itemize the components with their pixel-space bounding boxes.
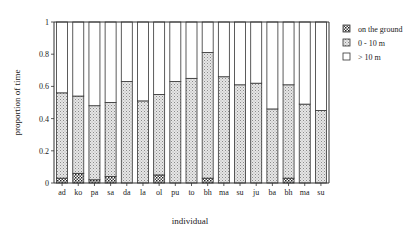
bar-segment	[73, 173, 84, 183]
x-tick-label: ma	[219, 188, 229, 197]
legend-label: on the ground	[358, 25, 402, 34]
bar-segment	[315, 22, 326, 111]
x-tick-label: bh	[204, 188, 212, 197]
bar-segment	[202, 22, 213, 53]
x-tick-label: bh	[285, 188, 293, 197]
x-tick-label: su	[236, 188, 243, 197]
plot-area: adkopasadalaolputobhmasujubabhmasu00.20.…	[12, 18, 329, 226]
bar-segment	[202, 53, 213, 179]
bar-segment	[218, 22, 229, 77]
bar-segment	[283, 85, 294, 178]
x-tick-label: ju	[252, 188, 259, 197]
bar-ba	[267, 22, 278, 183]
bar-ma	[299, 22, 310, 183]
y-tick-label: 0.4	[39, 115, 49, 124]
x-axis-title: individual	[172, 216, 209, 226]
bar-segment	[154, 175, 165, 183]
bar-segment	[235, 22, 246, 85]
bar-segment	[170, 22, 181, 82]
bar-pa	[89, 22, 100, 183]
legend-swatch	[343, 25, 350, 32]
bar-segment	[57, 93, 68, 178]
bar-segment	[121, 82, 132, 183]
bar-segment	[154, 22, 165, 94]
x-tick-label: pu	[171, 188, 179, 197]
bar-su	[315, 22, 326, 183]
legend-label: > 10 m	[358, 53, 382, 62]
legend-label: 0 - 10 m	[358, 39, 386, 48]
y-tick-label: 0.6	[39, 82, 49, 91]
x-tick-label: ma	[300, 188, 310, 197]
stacked-bar-chart: adkopasadalaolputobhmasujubabhmasu00.20.…	[0, 0, 420, 234]
x-tick-label: su	[317, 188, 324, 197]
bar-to	[186, 22, 197, 183]
x-tick-label: da	[123, 188, 131, 197]
bar-segment	[299, 104, 310, 183]
bar-segment	[218, 77, 229, 183]
bar-segment	[170, 82, 181, 183]
bar-segment	[283, 178, 294, 183]
bar-segment	[73, 96, 84, 173]
bar-segment	[137, 101, 148, 183]
bar-su	[235, 22, 246, 183]
bar-la	[137, 22, 148, 183]
bar-segment	[154, 94, 165, 175]
bar-segment	[89, 106, 100, 180]
bar-segment	[57, 178, 68, 183]
legend: on the ground0 - 10 m> 10 m	[343, 25, 402, 62]
bar-segment	[186, 78, 197, 183]
bar-segment	[267, 109, 278, 183]
bar-segment	[251, 83, 262, 183]
bar-segment	[283, 22, 294, 85]
bar-segment	[235, 85, 246, 183]
y-tick-label: 0.8	[39, 50, 49, 59]
bar-segment	[267, 22, 278, 109]
x-tick-label: ba	[269, 188, 277, 197]
bar-segment	[89, 22, 100, 106]
bar-sa	[105, 22, 116, 183]
x-tick-label: ol	[156, 188, 163, 197]
legend-swatch	[343, 39, 350, 46]
y-axis-title: proportion of time	[12, 70, 22, 136]
bar-da	[121, 22, 132, 183]
x-tick-label: pa	[91, 188, 99, 197]
bar-ol	[154, 22, 165, 183]
bar-segment	[105, 22, 116, 103]
legend-swatch	[343, 53, 350, 60]
bar-segment	[137, 22, 148, 101]
bar-pu	[170, 22, 181, 183]
bar-ju	[251, 22, 262, 183]
x-tick-label: ko	[74, 188, 82, 197]
y-tick-label: 1	[45, 18, 49, 27]
bar-segment	[315, 111, 326, 183]
bar-ko	[73, 22, 84, 183]
bar-segment	[105, 177, 116, 183]
bar-segment	[299, 22, 310, 104]
x-tick-label: la	[140, 188, 146, 197]
x-tick-label: to	[188, 188, 194, 197]
bar-ad	[57, 22, 68, 183]
y-tick-label: 0	[45, 179, 49, 188]
bar-ma	[218, 22, 229, 183]
bar-segment	[73, 22, 84, 96]
bar-segment	[105, 103, 116, 177]
bar-segment	[202, 178, 213, 183]
y-tick-label: 0.2	[39, 147, 49, 156]
bar-bh	[283, 22, 294, 183]
x-tick-label: sa	[107, 188, 114, 197]
bar-bh	[202, 22, 213, 183]
x-tick-label: ad	[58, 188, 66, 197]
bar-segment	[57, 22, 68, 93]
bar-segment	[251, 22, 262, 83]
bar-segment	[186, 22, 197, 78]
bar-segment	[121, 22, 132, 82]
